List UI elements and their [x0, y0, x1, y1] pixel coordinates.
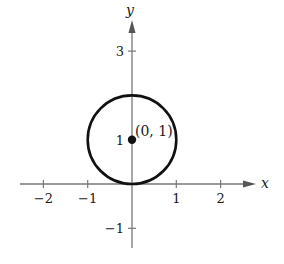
y-axis-label: y — [125, 2, 135, 18]
coordinate-plane: xy −2−11231−1 (0, 1) — [0, 0, 284, 264]
x-tick-label: 2 — [216, 191, 224, 206]
y-tick-label: 1 — [116, 133, 124, 148]
x-tick-label: −2 — [34, 191, 53, 206]
x-tick-label: −1 — [78, 191, 97, 206]
y-tick-label: −1 — [105, 221, 124, 236]
y-tick-label: 3 — [116, 44, 124, 59]
x-axis-label: x — [261, 175, 269, 191]
circle-graph: xy −2−11231−1 (0, 1) — [0, 0, 284, 264]
x-axis-arrow-icon — [243, 181, 256, 188]
center-point-label: (0, 1) — [135, 123, 173, 139]
plotted-points: (0, 1) — [128, 123, 173, 144]
y-axis-arrow-icon — [129, 20, 136, 33]
x-tick-label: 1 — [172, 191, 180, 206]
